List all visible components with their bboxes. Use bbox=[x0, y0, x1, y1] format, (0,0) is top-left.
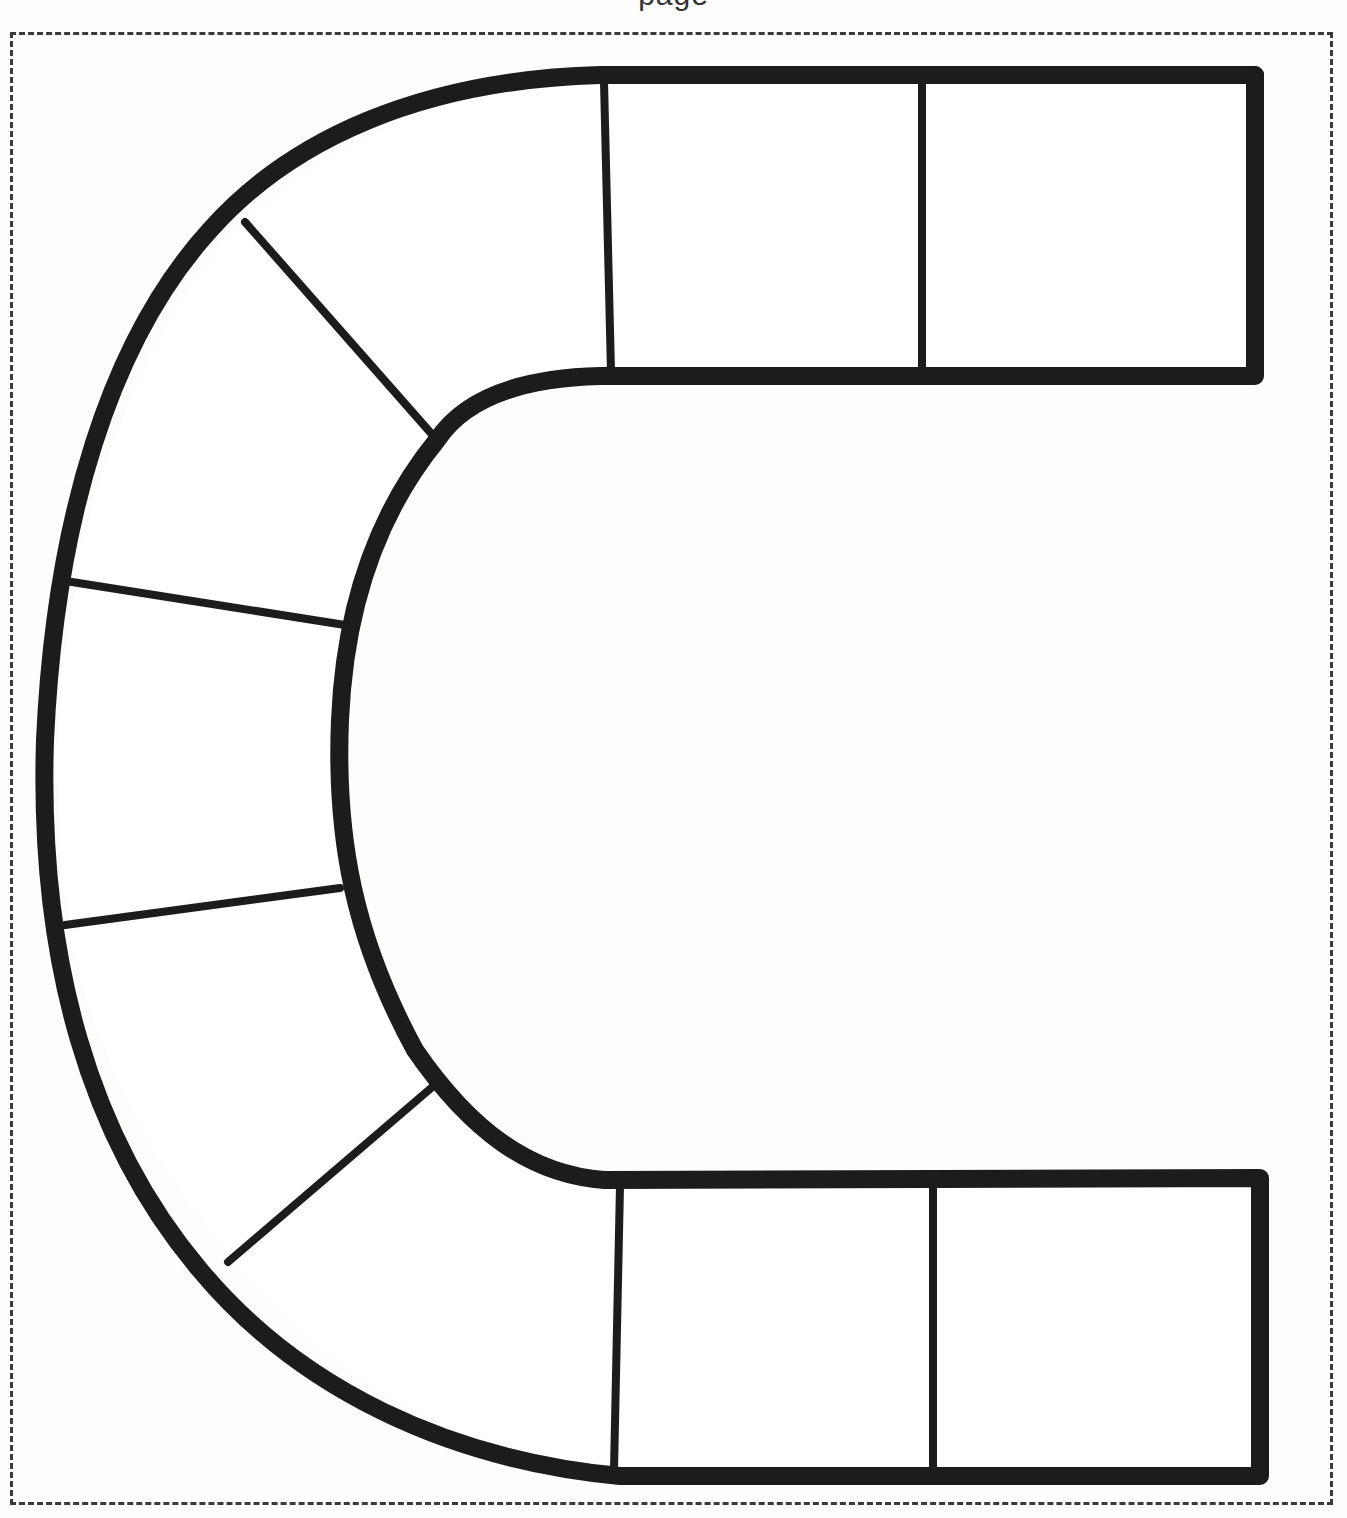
board-space-bottom-right-end[interactable] bbox=[940, 1188, 1252, 1468]
printable-page: page bbox=[0, 0, 1347, 1518]
board-space-left-side[interactable] bbox=[58, 590, 342, 918]
divider-bottom-1 bbox=[614, 1186, 620, 1470]
game-board-track bbox=[0, 0, 1347, 1518]
board-spaces bbox=[58, 84, 1252, 1468]
board-space-bottom-straight[interactable] bbox=[620, 1188, 926, 1468]
board-space-top-right-end[interactable] bbox=[926, 84, 1247, 368]
board-space-top-straight[interactable] bbox=[612, 84, 918, 368]
